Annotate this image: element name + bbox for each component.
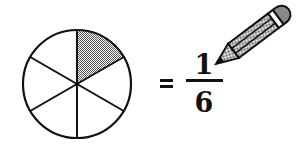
pencil-icon: [0, 0, 305, 144]
